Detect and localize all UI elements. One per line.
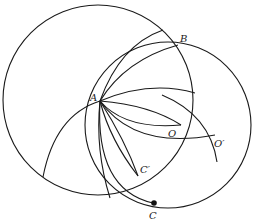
- point-c: [151, 200, 157, 206]
- arc-a-to-cprime-2: [100, 101, 138, 176]
- label-c-prime: C′: [140, 164, 151, 175]
- labels-layer: ABOO′C′C: [89, 33, 225, 221]
- arc-a-to-c: [100, 101, 153, 203]
- circles-layer: [3, 5, 251, 208]
- label-a: A: [89, 92, 97, 103]
- label-c: C: [149, 210, 157, 221]
- arc-a-left-down: [43, 101, 100, 177]
- arc-a-to-b: [100, 45, 178, 101]
- label-o: O: [168, 128, 176, 139]
- diagram-canvas: ABOO′C′C: [0, 0, 253, 222]
- points-layer: [151, 200, 157, 206]
- arc-a-to-cprime-1: [100, 101, 138, 176]
- label-o-prime: O′: [214, 138, 225, 149]
- label-b: B: [179, 33, 187, 44]
- geometry-figure: ABOO′C′C: [0, 0, 253, 222]
- arc-a-to-right: [100, 88, 195, 101]
- arcs-layer: [43, 30, 217, 203]
- circle-through-c: [85, 42, 251, 208]
- large-circle: [3, 5, 193, 195]
